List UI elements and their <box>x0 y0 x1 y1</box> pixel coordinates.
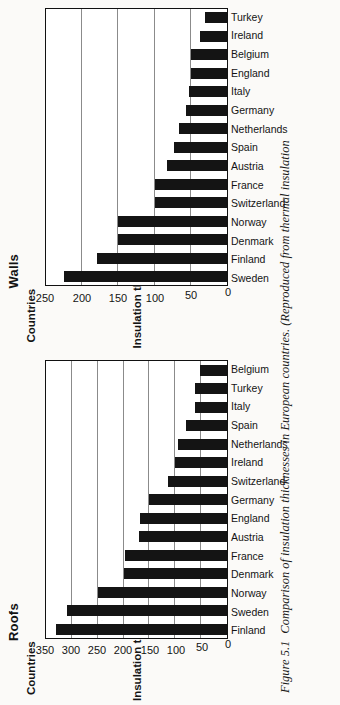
x-tick-label-roofs-2: Norway <box>228 588 272 599</box>
y-tick-roofs-150: 150 <box>144 641 156 659</box>
y-tick-roofs-200: 200 <box>117 641 129 659</box>
chart-title-walls: Walls <box>6 0 23 289</box>
bar-walls-6 <box>167 160 227 171</box>
x-tick-label-roofs-10: Netherlands <box>228 438 272 449</box>
x-tick-label-walls-0: Sweden <box>228 273 272 284</box>
bar-walls-0 <box>64 272 227 283</box>
y-tick-walls-250: 250 <box>39 289 51 307</box>
bar-roofs-10 <box>178 439 227 450</box>
chart-panel-walls: Walls Countries 050100150200250Insulatio… <box>0 0 272 353</box>
x-tick-label-roofs-3: Denmark <box>228 569 272 580</box>
x-tick-label-roofs-0: Finland <box>228 625 272 636</box>
y-tick-walls-0: 0 <box>222 289 234 295</box>
y-axis-roofs: 050100150200250300350Insulation thicknes… <box>45 639 228 697</box>
charts-row: Roofs Countries 050100150200250300350Ins… <box>0 0 272 705</box>
bar-roofs-14 <box>200 365 227 376</box>
figure-caption: Figure 5.1Comparison of insulation thick… <box>276 0 338 705</box>
bar-walls-12 <box>191 49 227 60</box>
y-tick-walls-50: 50 <box>185 289 197 301</box>
bar-walls-13 <box>200 31 228 42</box>
x-tick-label-roofs-4: France <box>228 550 272 561</box>
bar-roofs-3 <box>124 568 227 579</box>
bar-walls-14 <box>205 12 227 23</box>
x-tick-label-walls-13: Ireland <box>228 30 272 41</box>
plot-frame-roofs <box>45 361 228 640</box>
bar-series-roofs <box>46 362 227 639</box>
bar-roofs-13 <box>195 383 227 394</box>
bar-walls-1 <box>97 253 227 264</box>
y-tick-roofs-0: 0 <box>222 641 234 647</box>
plot-area-walls <box>45 8 228 287</box>
chart-title-roofs: Roofs <box>6 353 23 642</box>
x-tick-label-walls-2: Denmark <box>228 235 272 246</box>
x-tick-label-roofs-13: Turkey <box>228 382 272 393</box>
x-tick-label-roofs-14: Belgium <box>228 364 272 375</box>
bar-roofs-0 <box>56 624 227 635</box>
y-tick-roofs-250: 250 <box>91 641 103 659</box>
y-tick-roofs-300: 300 <box>65 641 77 659</box>
bar-series-walls <box>46 9 227 286</box>
bar-roofs-1 <box>67 605 227 616</box>
bar-walls-5 <box>155 179 227 190</box>
x-tick-label-roofs-11: Spain <box>228 420 272 431</box>
x-tick-label-walls-11: England <box>228 67 272 78</box>
y-tick-walls-150: 150 <box>112 289 124 307</box>
x-tick-label-roofs-5: Austria <box>228 532 272 543</box>
x-tick-label-walls-1: Finland <box>228 254 272 265</box>
figure-caption-label: Figure 5.1 <box>278 641 292 693</box>
x-tick-label-walls-6: Austria <box>228 160 272 171</box>
x-tick-labels-roofs: FinlandSwedenNorwayDenmarkFranceAustriaE… <box>228 361 272 640</box>
y-tick-walls-100: 100 <box>149 289 161 307</box>
x-tick-label-walls-8: Netherlands <box>228 123 272 134</box>
bar-roofs-6 <box>140 513 227 524</box>
x-tick-label-walls-14: Turkey <box>228 11 272 22</box>
bar-roofs-9 <box>175 457 227 468</box>
bar-walls-11 <box>191 68 227 79</box>
bar-walls-2 <box>118 234 227 245</box>
bar-roofs-7 <box>149 494 227 505</box>
y-tick-roofs-100: 100 <box>170 641 182 659</box>
bar-roofs-8 <box>168 476 227 487</box>
y-tick-roofs-350: 350 <box>39 641 51 659</box>
figure-5-1: Roofs Countries 050100150200250300350Ins… <box>0 0 340 705</box>
y-tick-walls-200: 200 <box>76 289 88 307</box>
x-tick-label-roofs-12: Italy <box>228 401 272 412</box>
y-tick-roofs-50: 50 <box>196 641 208 653</box>
plot-area-roofs <box>45 361 228 640</box>
bar-roofs-4 <box>125 550 227 561</box>
figure-caption-text: Comparison of insulation thicknesses in … <box>278 140 292 633</box>
bar-roofs-12 <box>195 402 227 413</box>
x-tick-label-walls-9: Germany <box>228 104 272 115</box>
x-tick-label-walls-7: Spain <box>228 142 272 153</box>
x-tick-label-walls-12: Belgium <box>228 48 272 59</box>
x-tick-label-walls-10: Italy <box>228 86 272 97</box>
x-tick-label-walls-4: Switzerland <box>228 198 272 209</box>
bar-walls-7 <box>174 142 227 153</box>
x-tick-label-walls-3: Norway <box>228 216 272 227</box>
x-tick-label-walls-5: France <box>228 179 272 190</box>
chart-panel-roofs: Roofs Countries 050100150200250300350Ins… <box>0 353 272 705</box>
plot-wrap-walls: Countries 050100150200250Insulation thic… <box>23 6 272 345</box>
bar-walls-9 <box>186 105 227 116</box>
bar-walls-3 <box>118 216 227 227</box>
x-tick-labels-walls: SwedenFinlandDenmarkNorwaySwitzerlandFra… <box>228 8 272 287</box>
x-tick-label-roofs-7: Germany <box>228 494 272 505</box>
bar-walls-10 <box>189 86 227 97</box>
bar-roofs-5 <box>139 531 227 542</box>
x-tick-label-roofs-6: England <box>228 513 272 524</box>
bar-walls-4 <box>155 197 227 208</box>
bar-roofs-11 <box>186 420 227 431</box>
x-tick-label-roofs-9: Ireland <box>228 457 272 468</box>
plot-wrap-roofs: Countries 050100150200250300350Insulatio… <box>23 359 272 698</box>
bar-roofs-2 <box>98 587 227 598</box>
x-tick-label-roofs-1: Sweden <box>228 606 272 617</box>
y-axis-walls: 050100150200250Insulation thickness (mm) <box>45 287 228 345</box>
x-tick-label-roofs-8: Switzerland <box>228 476 272 487</box>
plot-frame-walls <box>45 8 228 287</box>
bar-walls-8 <box>179 123 228 134</box>
scanned-page: Roofs Countries 050100150200250300350Ins… <box>0 0 340 705</box>
